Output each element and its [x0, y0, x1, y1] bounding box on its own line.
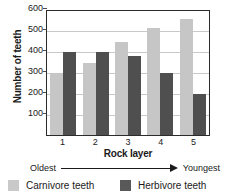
- bar-group-3: [115, 11, 141, 135]
- legend-item-herbivore: Herbivore teeth: [120, 180, 206, 191]
- age-direction-annotation: Oldest Youngest: [30, 161, 220, 175]
- legend-item-carnivore: Carnivore teeth: [8, 180, 120, 191]
- bar-carnivore-2: [83, 63, 96, 135]
- bar-group-4: [147, 11, 173, 135]
- bar-herbivore-5: [193, 94, 206, 135]
- y-tick-100-text: 100: [28, 108, 43, 118]
- y-tick-200-text: 200: [28, 87, 43, 97]
- arrow-line: [61, 168, 171, 169]
- y-axis-tick-labels: 600 500 400 300 200 100: [17, 8, 43, 136]
- y-tick-300: 300: [17, 67, 43, 76]
- chart-legend: Carnivore teeth Herbivore teeth: [8, 178, 221, 192]
- y-tick-500: 500: [17, 25, 43, 34]
- legend-label-carnivore: Carnivore teeth: [26, 180, 94, 191]
- bar-carnivore-3: [115, 42, 128, 135]
- legend-label-herbivore: Herbivore teeth: [138, 180, 206, 191]
- y-tick-100: 100: [17, 109, 43, 118]
- plot-area: [46, 10, 210, 136]
- bar-carnivore-5: [180, 19, 193, 135]
- y-tick-300-text: 300: [28, 66, 43, 76]
- bar-chart-figure: Number of teeth 600 500 400 300 200 100: [0, 0, 227, 196]
- dark-gray-swatch-icon: [120, 180, 131, 191]
- y-tick-400-text: 400: [28, 45, 43, 55]
- right-arrow-icon: [61, 163, 178, 173]
- bar-herbivore-3: [128, 56, 141, 135]
- youngest-label: Youngest: [183, 163, 220, 173]
- light-gray-swatch-icon: [8, 180, 19, 191]
- bar-groups: [47, 11, 209, 135]
- bar-group-2: [83, 11, 109, 135]
- bar-group-5: [180, 11, 206, 135]
- bar-herbivore-2: [96, 52, 109, 135]
- x-axis-title: Rock layer: [46, 148, 210, 159]
- y-tick-400: 400: [17, 46, 43, 55]
- bar-carnivore-4: [147, 28, 160, 135]
- bar-group-1: [50, 11, 76, 135]
- bar-herbivore-4: [160, 73, 173, 135]
- y-tick-500-text: 500: [28, 24, 43, 34]
- bar-herbivore-1: [63, 52, 76, 135]
- arrow-head: [170, 164, 178, 172]
- y-tick-600: 600: [17, 4, 43, 13]
- y-tick-mark: [43, 8, 47, 9]
- y-tick-200: 200: [17, 88, 43, 97]
- bar-carnivore-1: [50, 73, 63, 135]
- y-tick-600-text: 600: [28, 3, 43, 13]
- oldest-label: Oldest: [30, 163, 56, 173]
